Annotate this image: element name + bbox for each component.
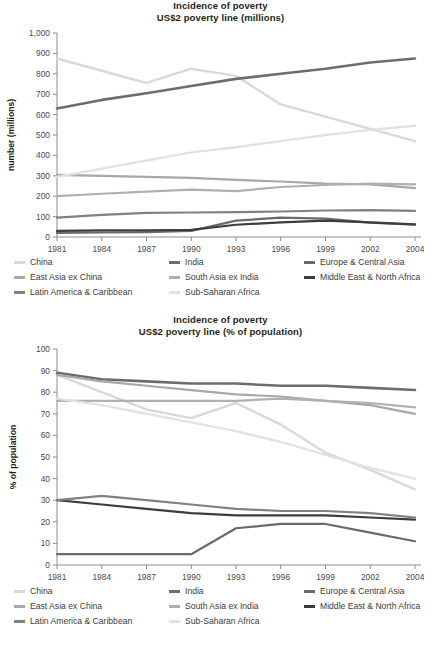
legend-item-latin-america-caribbean[interactable]: Latin America & Caribbean <box>14 285 169 300</box>
legend-item-label: East Asia ex China <box>30 272 102 283</box>
legend-item-label: China <box>30 586 52 597</box>
chart-percent-subtitle: US$2 poverty line (% of population) <box>0 326 441 338</box>
legend-item-europe-central-asia[interactable]: Europe & Central Asia <box>304 584 441 599</box>
svg-text:500: 500 <box>36 130 50 140</box>
svg-text:1981: 1981 <box>48 572 67 582</box>
legend-item-label: Sub-Saharan Africa <box>185 287 260 298</box>
legend-swatch-icon <box>14 590 25 593</box>
svg-text:90: 90 <box>41 366 51 376</box>
svg-text:100: 100 <box>36 344 50 354</box>
legend-item-india[interactable]: India <box>169 255 304 270</box>
legend-item-latin-america-caribbean[interactable]: Latin America & Caribbean <box>14 614 169 629</box>
legend-swatch-icon <box>169 605 180 608</box>
legend-item-label: Sub-Saharan Africa <box>185 616 260 627</box>
svg-text:70: 70 <box>41 409 51 419</box>
svg-text:0: 0 <box>45 232 50 242</box>
legend-swatch-icon <box>14 291 25 294</box>
series-line-south-asia-ex-india <box>57 184 415 197</box>
legend-swatch-icon <box>14 620 25 623</box>
svg-text:2004: 2004 <box>406 572 425 582</box>
svg-text:30: 30 <box>41 495 51 505</box>
legend-item-label: East Asia ex China <box>30 601 102 612</box>
series-line-europe-central-asia <box>57 524 415 554</box>
svg-text:2002: 2002 <box>361 572 380 582</box>
svg-text:1984: 1984 <box>92 244 111 254</box>
legend-swatch-icon <box>169 590 180 593</box>
svg-text:number (millions): number (millions) <box>6 99 16 171</box>
series-line-sub-saharan-africa <box>57 126 415 177</box>
svg-text:1984: 1984 <box>92 572 111 582</box>
chart-millions-block: Incidence of poverty US$2 poverty line (… <box>0 0 441 255</box>
svg-text:60: 60 <box>41 430 51 440</box>
legend-swatch-icon <box>304 276 315 279</box>
svg-text:600: 600 <box>36 110 50 120</box>
legend-item-label: Middle East & North Africa <box>320 272 420 283</box>
series-line-middle-east-north-africa <box>57 221 415 231</box>
legend-swatch-icon <box>169 620 180 623</box>
legend-swatch-icon <box>14 605 25 608</box>
chart-percent-title-line1: Incidence of poverty <box>0 314 441 326</box>
svg-text:2004: 2004 <box>406 244 425 254</box>
legend-item-sub-saharan-africa[interactable]: Sub-Saharan Africa <box>169 285 304 300</box>
svg-text:1993: 1993 <box>227 572 246 582</box>
legend-item-sub-saharan-africa[interactable]: Sub-Saharan Africa <box>169 614 304 629</box>
legend-swatch-icon <box>14 261 25 264</box>
legend-item-south-asia-ex-india[interactable]: South Asia ex India <box>169 599 304 614</box>
chart-percent-plot: 0102030405060708090100% of population198… <box>0 337 441 584</box>
legend-item-label: Europe & Central Asia <box>320 586 405 597</box>
svg-text:800: 800 <box>36 69 50 79</box>
legend-item-east-asia-ex-china[interactable]: East Asia ex China <box>14 270 169 285</box>
legend-item-label: Latin America & Caribbean <box>30 616 132 627</box>
svg-text:1993: 1993 <box>227 244 246 254</box>
legend-swatch-icon <box>304 261 315 264</box>
chart-percent-title: Incidence of poverty US$2 poverty line (… <box>0 314 441 337</box>
svg-text:1,000: 1,000 <box>29 28 50 38</box>
legend-swatch-icon <box>304 605 315 608</box>
legend-item-east-asia-ex-china[interactable]: East Asia ex China <box>14 599 169 614</box>
legend-swatch-icon <box>169 291 180 294</box>
svg-text:% of population: % of population <box>8 425 18 489</box>
legend-item-label: South Asia ex India <box>185 272 259 283</box>
svg-text:0: 0 <box>45 560 50 570</box>
svg-text:1996: 1996 <box>271 244 290 254</box>
svg-text:900: 900 <box>36 48 50 58</box>
svg-text:1987: 1987 <box>137 572 156 582</box>
series-line-india <box>57 59 415 109</box>
series-line-latin-america-caribbean <box>57 210 415 218</box>
legend-swatch-icon <box>14 276 25 279</box>
svg-text:1999: 1999 <box>316 572 335 582</box>
svg-text:400: 400 <box>36 150 50 160</box>
legend-item-europe-central-asia[interactable]: Europe & Central Asia <box>304 255 441 270</box>
series-line-east-asia-ex-china <box>57 175 415 188</box>
legend-item-india[interactable]: India <box>169 584 304 599</box>
svg-text:1996: 1996 <box>271 572 290 582</box>
legend-item-label: Europe & Central Asia <box>320 257 405 268</box>
svg-text:200: 200 <box>36 191 50 201</box>
chart-millions-subtitle: US$2 poverty line (millions) <box>0 12 441 24</box>
chart-percent-block: Incidence of poverty US$2 poverty line (… <box>0 314 441 584</box>
chart-millions-title-line1: Incidence of poverty <box>0 0 441 12</box>
legend-item-middle-east-north-africa[interactable]: Middle East & North Africa <box>304 599 441 614</box>
svg-text:2002: 2002 <box>361 244 380 254</box>
legend-chart-millions: ChinaIndiaEurope & Central AsiaEast Asia… <box>0 255 441 300</box>
svg-text:1999: 1999 <box>316 244 335 254</box>
svg-text:100: 100 <box>36 212 50 222</box>
svg-text:50: 50 <box>41 452 51 462</box>
legend-item-south-asia-ex-india[interactable]: South Asia ex India <box>169 270 304 285</box>
legend-item-china[interactable]: China <box>14 255 169 270</box>
legend-item-china[interactable]: China <box>14 584 169 599</box>
legend-item-label: Middle East & North Africa <box>320 601 420 612</box>
legend-item-middle-east-north-africa[interactable]: Middle East & North Africa <box>304 270 441 285</box>
svg-text:700: 700 <box>36 89 50 99</box>
legend-swatch-icon <box>169 276 180 279</box>
legend-item-label: India <box>185 257 204 268</box>
legend-swatch-icon <box>169 261 180 264</box>
legend-item-label: China <box>30 257 52 268</box>
legend-swatch-icon <box>304 590 315 593</box>
svg-text:10: 10 <box>41 538 51 548</box>
svg-text:1990: 1990 <box>182 572 201 582</box>
legend-item-label: South Asia ex India <box>185 601 259 612</box>
svg-text:1990: 1990 <box>182 244 201 254</box>
svg-text:20: 20 <box>41 517 51 527</box>
svg-text:80: 80 <box>41 387 51 397</box>
